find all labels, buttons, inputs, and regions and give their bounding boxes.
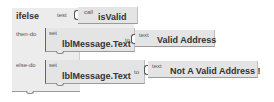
text-label: text — [139, 32, 149, 38]
ifelse-footer — [12, 84, 80, 92]
test-label: test — [57, 12, 67, 18]
procedure-name: isValid — [98, 12, 127, 22]
ifelse-keyword: ifelse — [16, 11, 39, 21]
text-label: text — [152, 63, 162, 69]
property-name: lblMessage.Text — [62, 39, 131, 49]
else-do-label: else-do — [16, 62, 36, 68]
call-label: call — [84, 9, 93, 15]
then-do-label: then-do — [16, 31, 36, 37]
text-value: Valid Address — [157, 35, 216, 45]
text-value: Not A Valid Address ! — [170, 66, 261, 76]
ifelse-bottom-notch — [26, 91, 34, 94]
then-set-block[interactable]: set lblMessage.Text to — [45, 28, 135, 52]
set-label: set — [49, 62, 57, 68]
to-label: to — [125, 37, 130, 43]
else-text-block[interactable]: text Not A Valid Address ! — [148, 61, 258, 78]
to-label: to — [134, 69, 139, 75]
then-text-block[interactable]: text Valid Address — [135, 30, 215, 47]
call-isvalid-block[interactable]: call isValid — [78, 7, 138, 24]
else-set-block[interactable]: set lblMessage.Text to — [45, 60, 145, 84]
property-name: lblMessage.Text — [62, 71, 131, 81]
set-label: set — [49, 30, 57, 36]
